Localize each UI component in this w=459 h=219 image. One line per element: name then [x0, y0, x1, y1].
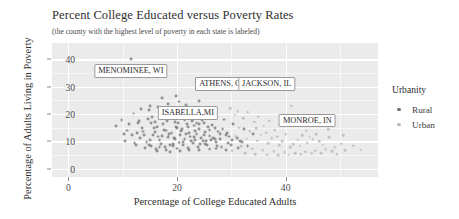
x-tick-mark [286, 177, 287, 181]
scatter-point [276, 135, 279, 138]
scatter-point [284, 133, 287, 136]
scatter-point [305, 129, 308, 132]
scatter-point [321, 143, 324, 146]
scatter-point [128, 123, 131, 126]
scatter-point [197, 127, 200, 130]
scatter-point [197, 100, 200, 103]
scatter-point [263, 124, 266, 127]
scatter-point [340, 142, 343, 145]
scatter-point [165, 129, 168, 132]
y-tick-mark [47, 168, 51, 169]
scatter-point [182, 141, 185, 144]
scatter-point [148, 104, 151, 107]
scatter-point [178, 141, 181, 144]
scatter-point [335, 153, 338, 156]
scatter-point [256, 140, 259, 143]
scatter-point [248, 130, 251, 133]
scatter-point [161, 122, 164, 125]
scatter-point [281, 140, 284, 143]
chart-subtitle: (the county with the highest level of po… [52, 27, 260, 36]
scatter-point [172, 136, 175, 139]
scatter-point [228, 135, 231, 138]
scatter-point [246, 111, 249, 114]
legend-entry-urban[interactable]: Urban [392, 117, 458, 132]
scatter-point [245, 137, 248, 140]
scatter-point [203, 122, 206, 125]
scatter-point [173, 121, 176, 124]
scatter-point [224, 149, 227, 152]
scatter-point [198, 143, 201, 146]
scatter-point [208, 129, 211, 132]
scatter-point [137, 120, 140, 123]
scatter-point [314, 149, 317, 152]
scatter-point [152, 133, 155, 136]
legend-title: Urbanity [392, 84, 458, 95]
x-tick-label: 20 [157, 182, 197, 193]
scatter-point [220, 146, 223, 149]
y-tick-label: 20 [35, 109, 75, 120]
legend-entries: RuralUrban [392, 102, 458, 132]
scatter-point [186, 125, 189, 128]
y-tick-label: 40 [35, 54, 75, 65]
x-tick-label: 40 [266, 182, 306, 193]
scatter-point [129, 58, 132, 61]
scatter-point [333, 146, 336, 149]
scatter-point [318, 140, 321, 143]
scatter-point [210, 124, 213, 127]
scatter-point [359, 148, 362, 151]
scatter-point [239, 139, 242, 142]
scatter-point [207, 126, 210, 129]
x-tick-label: 0 [48, 182, 88, 193]
scatter-point [133, 142, 136, 145]
scatter-point [168, 132, 171, 135]
scatter-point [278, 144, 281, 147]
scatter-point [199, 136, 202, 139]
y-tick-mark [47, 86, 51, 87]
county-label-callout: MONROE, IN [279, 114, 336, 128]
scatter-point [176, 147, 179, 150]
scatter-point [352, 145, 355, 148]
scatter-point [277, 154, 280, 157]
gridline-minor-horizontal [52, 155, 378, 156]
scatter-point [283, 151, 286, 154]
y-tick-mark [47, 59, 51, 60]
scatter-point [310, 152, 313, 155]
scatter-point [234, 135, 237, 138]
scatter-point [215, 141, 218, 144]
scatter-point [193, 124, 196, 127]
scatter-point [187, 131, 190, 134]
legend-entry-rural[interactable]: Rural [392, 102, 458, 117]
scatter-point [229, 107, 232, 110]
scatter-point [178, 100, 181, 103]
scatter-point [160, 135, 163, 138]
scatter-point [342, 134, 345, 137]
scatter-point [243, 127, 246, 130]
scatter-point [166, 119, 169, 122]
scatter-point [215, 147, 218, 150]
scatter-point [179, 150, 182, 153]
scatter-point [189, 135, 192, 138]
chart-title: Percent College Educated versus Poverty … [52, 8, 294, 23]
scatter-point [160, 97, 163, 100]
scatter-point [148, 138, 151, 141]
scatter-point [238, 126, 241, 129]
scatter-point [231, 138, 234, 141]
y-axis-title: Percentage of Adults Living in Poverty [22, 29, 33, 209]
scatter-point [131, 133, 134, 136]
scatter-point [254, 153, 257, 156]
scatter-point [244, 152, 247, 155]
scatter-point [265, 131, 268, 134]
scatter-point [232, 122, 235, 125]
gridline-major-horizontal [52, 59, 378, 60]
legend: Urbanity RuralUrban [392, 84, 458, 132]
scatter-point [194, 138, 197, 141]
scatter-point [209, 139, 212, 142]
scatter-point [142, 130, 145, 133]
legend-dot-icon [397, 108, 400, 111]
scatter-point [233, 113, 236, 116]
scatter-point [180, 130, 183, 133]
scatter-point [231, 149, 234, 152]
scatter-point [153, 127, 156, 130]
scatter-point [344, 149, 347, 152]
scatter-point [204, 142, 207, 145]
